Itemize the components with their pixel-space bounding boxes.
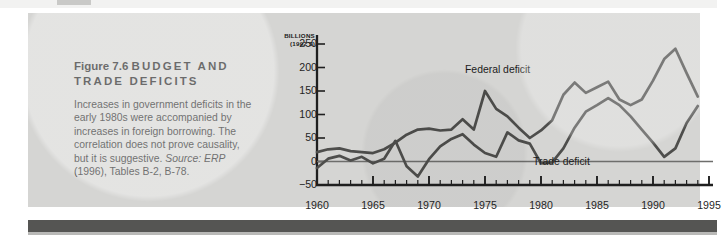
deficits-line-chart: BILLIONS (1992 $) 250200150100500−50 196… bbox=[269, 29, 721, 211]
figure-number: Figure 7.6 bbox=[74, 60, 128, 72]
series-label-federal-deficit: Federal deficit bbox=[465, 64, 530, 75]
series-line-trade-deficit bbox=[317, 98, 698, 176]
figure-heading: Figure 7.6 BUDGET AND TRADE DEFICITS bbox=[74, 59, 252, 89]
series-label-trade-deficit: Trade deficit bbox=[533, 156, 590, 167]
figure-caption-text: Increases in government deficits in the … bbox=[74, 98, 252, 178]
figure-panel: Figure 7.6 BUDGET AND TRADE DEFICITS Inc… bbox=[28, 13, 700, 207]
source-rest: (1996), Tables B-2, B-78. bbox=[74, 166, 189, 177]
scan-artifact bbox=[57, 0, 91, 5]
figure-caption-block: Figure 7.6 BUDGET AND TRADE DEFICITS Inc… bbox=[74, 59, 252, 178]
figure-title-line2: TRADE DEFICITS bbox=[74, 75, 199, 87]
plot-area bbox=[269, 29, 721, 211]
figure-title-line1: BUDGET AND bbox=[132, 60, 229, 72]
source-label: Source: bbox=[165, 153, 201, 164]
page-bottom-rule bbox=[28, 220, 717, 232]
source-publication: ERP bbox=[204, 153, 225, 164]
page-scan-top-edge bbox=[0, 0, 717, 8]
page-bottom-rule-shadow bbox=[28, 232, 717, 235]
